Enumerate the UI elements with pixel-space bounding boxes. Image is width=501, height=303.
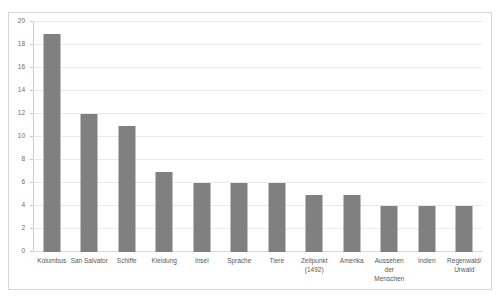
bar: [306, 195, 323, 253]
x-axis-label: Regenwald/ Urwald: [446, 256, 484, 274]
x-axis-label: Tiere: [258, 256, 296, 265]
bars-series: [33, 21, 483, 252]
bar: [156, 172, 173, 253]
bar: [81, 114, 98, 252]
y-tick-label-16: 16: [7, 64, 25, 71]
bar-slot: [33, 21, 71, 252]
x-axis-label: Sprache: [221, 256, 259, 265]
y-tick-label-6: 6: [7, 179, 25, 186]
bar-chart-figure: 20181614121086420 KolumbusSan SalvatorSc…: [8, 12, 492, 290]
bar: [268, 183, 285, 252]
bar-slot: [258, 21, 296, 252]
bar-slot: [408, 21, 446, 252]
y-tick-label-8: 8: [7, 156, 25, 163]
x-axis-label: Zeitpunkt (1492): [296, 256, 334, 274]
y-tick-label-18: 18: [7, 41, 25, 48]
bar-slot: [146, 21, 184, 252]
y-tick-label-12: 12: [7, 110, 25, 117]
y-tick-label-4: 4: [7, 202, 25, 209]
bar-slot: [371, 21, 409, 252]
x-axis-label: Amerika: [333, 256, 371, 265]
x-axis-label: Insel: [183, 256, 221, 265]
y-tick-label-0: 0: [7, 248, 25, 255]
bar: [343, 195, 360, 253]
y-tick-label-10: 10: [7, 133, 25, 140]
x-axis-label: Aussehen der Menschen: [371, 256, 409, 283]
bar-slot: [71, 21, 109, 252]
bar: [231, 183, 248, 252]
x-axis-label: Indien: [408, 256, 446, 265]
bar: [381, 206, 398, 252]
bar: [418, 206, 435, 252]
y-tick-label-14: 14: [7, 87, 25, 94]
bar: [43, 34, 60, 253]
y-tick-label-2: 2: [7, 225, 25, 232]
bar-slot: [108, 21, 146, 252]
bar-slot: [333, 21, 371, 252]
bar: [118, 126, 135, 253]
y-tick-label-20: 20: [7, 18, 25, 25]
bar: [193, 183, 210, 252]
x-axis-label: Kolumbus: [33, 256, 71, 265]
bar-slot: [296, 21, 334, 252]
x-axis-labels: KolumbusSan SalvatorSchiffeKleidungInsel…: [33, 256, 483, 290]
bar: [456, 206, 473, 252]
bar-slot: [446, 21, 484, 252]
x-axis-label: Kleidung: [146, 256, 184, 265]
x-axis-label: Schiffe: [108, 256, 146, 265]
bar-slot: [221, 21, 259, 252]
bar-slot: [183, 21, 221, 252]
x-axis-label: San Salvator: [71, 256, 109, 265]
